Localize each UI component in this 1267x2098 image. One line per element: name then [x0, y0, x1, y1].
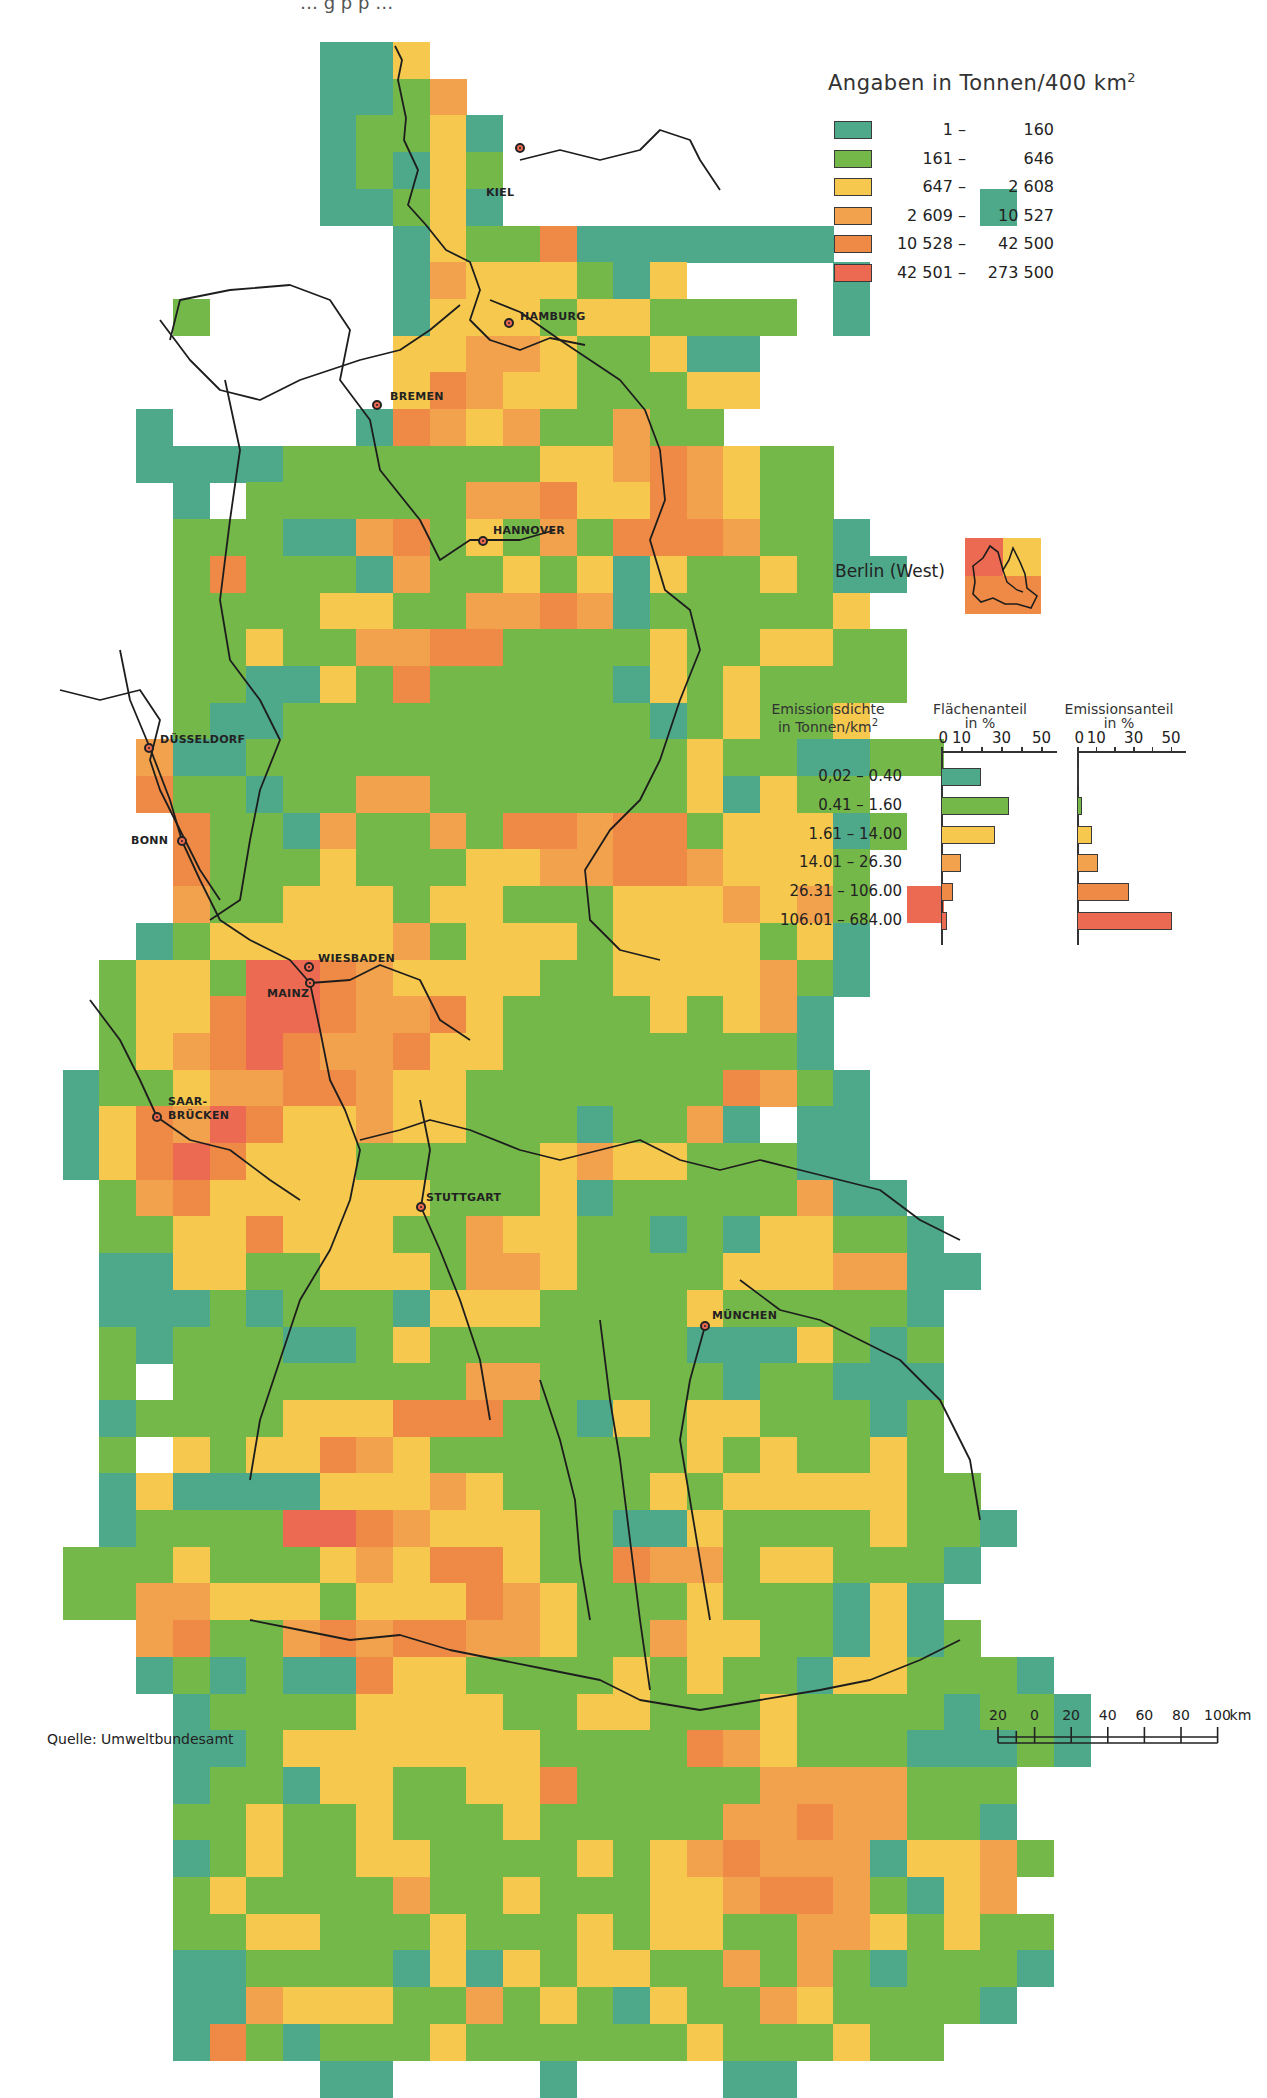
axis-tick	[961, 747, 963, 752]
grid-cell	[466, 1987, 503, 2024]
axis-tick-label: 10	[1087, 729, 1106, 747]
grid-cell	[833, 1914, 870, 1951]
grid-cell	[687, 1987, 724, 2024]
grid-cell	[540, 1950, 577, 1987]
grid-cell	[870, 1840, 907, 1877]
legend-range-to: 10 527	[984, 206, 1054, 225]
grid-cell	[466, 1804, 503, 1841]
grid-cell	[980, 1840, 1017, 1877]
grid-cell	[723, 1804, 760, 1841]
grid-cell	[246, 1840, 283, 1877]
grid-cell	[430, 1950, 467, 1987]
density-range-label: 0.41 – 1.60	[750, 796, 902, 814]
grid-cell	[833, 1804, 870, 1841]
grid-cell	[650, 1987, 687, 2024]
grid-cell	[210, 1877, 247, 1914]
grid-cell	[320, 1840, 357, 1877]
grid-cell	[760, 2024, 797, 2061]
grid-cell	[393, 2024, 430, 2061]
city-label: BREMEN	[390, 390, 444, 403]
grid-cell	[797, 1987, 834, 2024]
axis-tick-label: 50	[1162, 729, 1181, 747]
grid-cell	[907, 1840, 944, 1877]
city-marker-icon	[144, 743, 154, 753]
grid-cell	[466, 1877, 503, 1914]
berlin-label: Berlin (West)	[835, 561, 945, 581]
grid-cell	[723, 1914, 760, 1951]
grid-cell	[760, 1914, 797, 1951]
grid-cell	[173, 1840, 210, 1877]
grid-cell	[833, 1877, 870, 1914]
legend-item: 647 –2 608	[834, 177, 1094, 199]
axis-tick	[1041, 747, 1043, 752]
grid-cell	[687, 1877, 724, 1914]
legend-swatch	[834, 150, 872, 168]
grid-cell	[907, 1877, 944, 1914]
axis-tick	[1021, 747, 1023, 752]
grid-cell	[907, 1950, 944, 1987]
grid-cell	[797, 2024, 834, 2061]
grid-cell	[540, 2061, 577, 2098]
grid-cell	[980, 1987, 1017, 2024]
grid-cell	[173, 1987, 210, 2024]
legend-swatch	[834, 207, 872, 225]
area-share-bar	[941, 797, 1009, 815]
density-range-label: 1.61 – 14.00	[750, 825, 902, 843]
grid-cell	[797, 1804, 834, 1841]
emission-share-bar	[1077, 826, 1092, 844]
grid-cell	[210, 1840, 247, 1877]
grid-cell	[613, 2024, 650, 2061]
grid-cell	[246, 2024, 283, 2061]
city-label: HAMBURG	[520, 310, 586, 323]
grid-cell	[650, 1804, 687, 1841]
grid-cell	[870, 1914, 907, 1951]
legend-item: 10 528 –42 500	[834, 234, 1094, 256]
emission-share-bar	[1077, 883, 1129, 901]
axis-tick	[941, 747, 943, 752]
grid-cell	[393, 1950, 430, 1987]
grid-cell	[283, 1987, 320, 2024]
grid-cell	[907, 1914, 944, 1951]
grid-cell	[393, 1804, 430, 1841]
density-header: Emissionsdichte in Tonnen/km2	[752, 702, 904, 734]
grid-cell	[466, 1950, 503, 1987]
grid-cell	[870, 2024, 907, 2061]
axis-tick	[1171, 747, 1173, 752]
grid-cell	[430, 1987, 467, 2024]
city-marker-icon	[416, 1202, 426, 1212]
city-label: MAINZ	[267, 987, 309, 1000]
axis-tick-label: 0	[939, 729, 949, 747]
grid-cell	[356, 2024, 393, 2061]
grid-cell	[356, 1914, 393, 1951]
grid-cell	[356, 1840, 393, 1877]
grid-cell	[466, 1840, 503, 1877]
legend-range-from: 647 –	[886, 177, 966, 196]
grid-cell	[797, 1950, 834, 1987]
grid-cell	[320, 2061, 357, 2098]
axis-tick	[1077, 747, 1079, 752]
legend-range-to: 273 500	[984, 263, 1054, 282]
grid-cell	[430, 1840, 467, 1877]
grid-cell	[613, 1950, 650, 1987]
axis-tick	[1096, 747, 1098, 752]
grid-cell	[283, 1804, 320, 1841]
source-note: Quelle: Umweltbundesamt	[47, 1731, 234, 1747]
grid-cell	[246, 1950, 283, 1987]
density-range-label: 106.01 – 684.00	[750, 911, 902, 929]
grid-cell	[907, 2024, 944, 2061]
grid-cell	[210, 1950, 247, 1987]
grid-cell	[723, 1877, 760, 1914]
grid-cell	[210, 2024, 247, 2061]
grid-cell	[393, 1914, 430, 1951]
grid-cell	[1017, 1914, 1054, 1951]
city-marker-icon	[372, 400, 382, 410]
grid-cell	[870, 1987, 907, 2024]
city-marker-icon	[152, 1112, 162, 1122]
grid-cell	[833, 2024, 870, 2061]
grid-cell	[283, 1877, 320, 1914]
grid-cell	[356, 2061, 393, 2098]
axis-tick	[1114, 747, 1116, 752]
grid-cell	[760, 1950, 797, 1987]
axis-tick-label: 50	[1032, 729, 1051, 747]
grid-cell	[173, 1914, 210, 1951]
